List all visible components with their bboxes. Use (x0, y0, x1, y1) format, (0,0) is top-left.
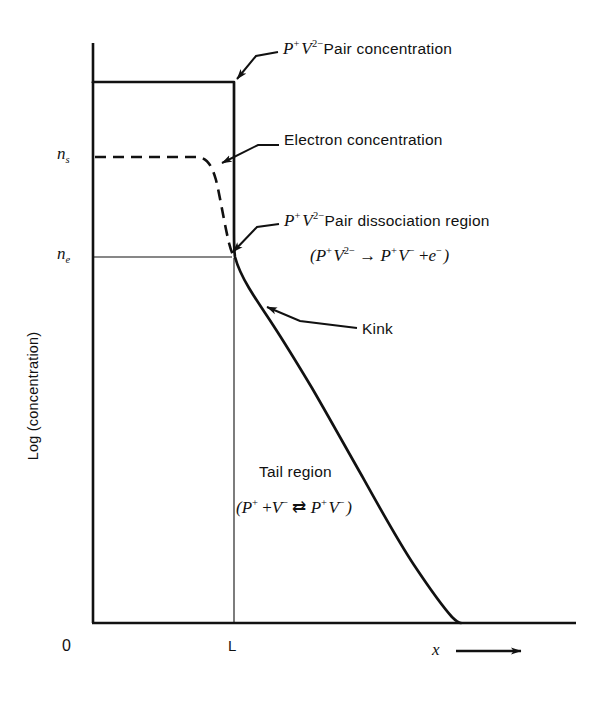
electron-concentration-curve (95, 157, 234, 257)
eq1-e: e (429, 246, 437, 265)
reaction-arrow-icon: → (359, 246, 376, 265)
leader-dissociation-region (233, 224, 279, 252)
eq1-v1: V (333, 246, 343, 265)
pair-concentration-curve (93, 82, 461, 623)
figure-root: Log (concentration) ns ne 0 L x P+ V2−Pa… (0, 0, 604, 702)
pair-conc-v-sup: 2− (312, 38, 324, 49)
annotation-tail-equation: (P+ +V− ⇄ P+ V− ) (236, 497, 352, 517)
equilibrium-arrow-icon: ⇄ (292, 498, 306, 517)
leader-pair-concentration (237, 52, 278, 79)
y-tick-ne-sub: e (66, 254, 71, 265)
eq2-v2: V (328, 498, 338, 517)
pair-conc-text: Pair concentration (324, 40, 453, 57)
dissoc-v: V (302, 211, 313, 230)
annotation-dissociation-equation: (P+ V2− → P+ V− +e− ) (310, 245, 449, 265)
eq1-p2: P (381, 246, 391, 265)
dissoc-text: Pair dissociation region (325, 212, 490, 229)
eq1-p1: P (316, 246, 326, 265)
pair-conc-v: V (301, 39, 312, 58)
eq1-v2: V (398, 246, 408, 265)
eq2-v1: V (272, 498, 282, 517)
annotation-kink: Kink (362, 320, 393, 337)
annotation-leaders (222, 52, 357, 328)
dissoc-v-sup: 2− (313, 210, 325, 221)
leader-electron-concentration (222, 145, 279, 163)
y-tick-ns-sub: s (66, 154, 70, 165)
x-tick-zero: 0 (62, 637, 71, 655)
annotation-dissociation-region: P+ V2−Pair dissociation region (284, 210, 490, 230)
annotation-tail-region: Tail region (259, 463, 332, 480)
eq2-plus: + (262, 498, 272, 517)
eq2-p2: P (311, 498, 321, 517)
reference-lines (93, 257, 234, 623)
pair-conc-p-sup: + (294, 38, 300, 49)
y-tick-ns-base: n (57, 144, 66, 163)
dissoc-p: P (284, 211, 295, 230)
annotation-pair-concentration: P+ V2−Pair concentration (283, 38, 452, 58)
diagram-canvas (0, 0, 604, 702)
leader-kink (267, 307, 357, 328)
y-tick-ns: ns (57, 145, 70, 166)
eq1-plus: + (419, 246, 429, 265)
dissoc-p-sup: + (295, 210, 301, 221)
pair-conc-p: P (283, 39, 294, 58)
y-tick-ne-base: n (57, 244, 66, 263)
axis-lines (92, 43, 576, 623)
pair-conc-formula: P+ V2− (283, 39, 324, 58)
annotation-electron-concentration: Electron concentration (284, 131, 443, 148)
y-axis-label: Log (concentration) (26, 301, 42, 491)
y-tick-ne: ne (57, 245, 70, 266)
dissoc-formula: P+ V2− (284, 211, 325, 230)
x-axis-label: x (432, 641, 440, 660)
x-tick-L: L (228, 638, 237, 655)
eq2-p1: P (242, 498, 252, 517)
